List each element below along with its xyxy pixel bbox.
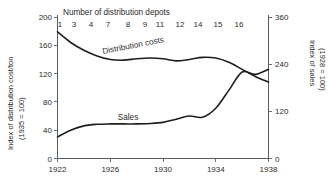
left-axis-title-line1: Index of distribution cost/ton [6,57,15,150]
left-tick-label-40: 40 [43,126,52,135]
left-tick-label-120: 120 [39,70,53,79]
x-tick-label-1938: 1938 [260,165,278,174]
right-tick-label-0: 0 [275,155,280,164]
x-tick-label-1922: 1922 [49,165,67,174]
depot-tick-label-3: 7 [106,20,111,29]
right-axis-title-group: Index of sales (1928 = 100) [308,40,327,91]
depot-tick-label-6: 11 [156,20,165,29]
distribution-costs-and-sales-line-chart: 200 160 120 80 40 0 Index of distributio… [0,0,328,184]
sales-label: Sales [118,113,138,122]
depot-tick-label-1: 3 [72,20,77,29]
chart-container: 200 160 120 80 40 0 Index of distributio… [0,0,328,184]
x-tick-label-1930: 1930 [154,165,172,174]
x-tick-label-1926: 1926 [101,165,119,174]
left-tick-label-200: 200 [39,13,53,22]
right-tick-label-240: 240 [275,60,289,69]
right-axis-title-line1: Index of sales [308,40,317,87]
depot-tick-label-9: 15 [214,20,223,29]
depot-tick-label-4: 8 [126,20,131,29]
left-tick-label-80: 80 [43,98,52,107]
x-tick-label-1934: 1934 [207,165,225,174]
left-tick-label-0: 0 [48,155,53,164]
depot-tick-label-10: 16 [235,20,244,29]
right-tick-label-120: 120 [275,107,289,116]
top-axis-title: Number of distribution depots [63,8,170,17]
depot-tick-label-0: 1 [58,20,63,29]
left-tick-label-160: 160 [39,41,53,50]
right-axis-title-line2: (1928 = 100) [318,48,327,91]
depot-tick-label-5: 9 [143,20,148,29]
right-tick-label-360: 360 [275,13,289,22]
depot-tick-label-2: 4 [89,20,94,29]
depot-tick-label-7: 12 [176,20,185,29]
left-axis-title-line2: (1935 = 100) [17,97,26,140]
depot-tick-label-8: 14 [194,20,203,29]
